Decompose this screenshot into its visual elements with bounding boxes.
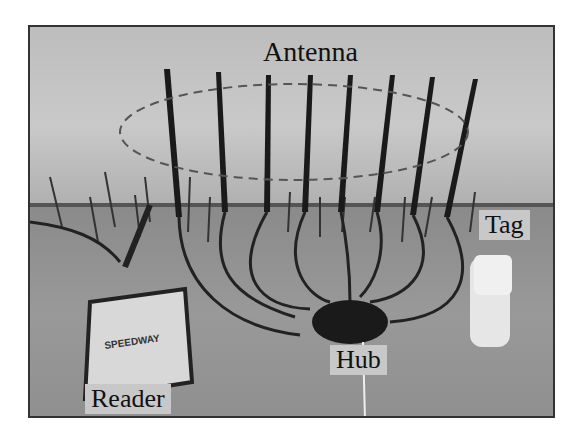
tag-object	[470, 255, 512, 347]
hub-device	[312, 300, 388, 344]
reader-device: SPEEDWAY	[85, 205, 192, 399]
label-reader: Reader	[85, 384, 171, 414]
label-hub: Hub	[330, 345, 387, 375]
photo-frame: SPEEDWAY Antenna Tag Hub Reader	[28, 25, 555, 418]
scene-illustration: SPEEDWAY	[30, 27, 555, 418]
label-antenna: Antenna	[257, 37, 364, 67]
label-tag: Tag	[479, 210, 530, 240]
